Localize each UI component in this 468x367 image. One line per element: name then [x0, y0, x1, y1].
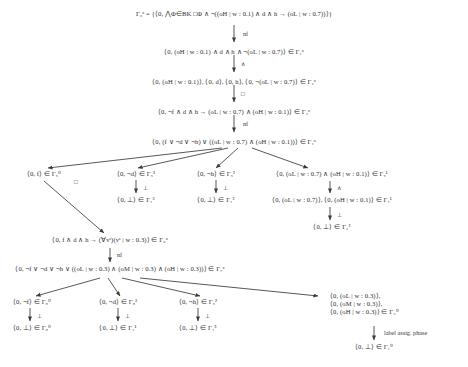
edge-label-bottom-2: ⊥	[223, 184, 228, 191]
node-bottom-notd2: ⟨0, ⊥⟩ ∈ Γ₄¹	[99, 324, 136, 332]
node-label-ol: ⟨0, (oL | w : 0.3)⟩,	[330, 292, 399, 300]
node-gamma6: ⟨0, f ∧ d ∧ h → (∀vˢ)(vˢ | w : 0.3)⟩ ∈ Γ…	[52, 236, 167, 244]
node-bottom-noth: ⟨0, ⊥⟩ ∈ Γ₁²	[197, 196, 234, 204]
node-bottom-conj: ⟨0, ⊥⟩ ∈ Γ₂²	[313, 223, 350, 231]
edge-label-bottom-5: ⊥	[125, 312, 130, 319]
edge-label-box-2: □	[74, 178, 78, 185]
edge-label-bottom-3: ⊥	[337, 211, 342, 218]
node-gamma2: ⟨0, (oH | w : 0.1)⟩, ⟨0, d⟩, ⟨0, h⟩, ⟨0,…	[152, 78, 316, 86]
edge-label-box-1: □	[241, 90, 245, 97]
node-root: Γ₀ᵒ = {⟨0, ⋀Φ∈BK □Φ ∧ ¬((oH | w : 0.1) ∧…	[136, 10, 332, 18]
node-gamma3: ⟨0, ¬f ∧ d ∧ h → (oL | w : 0.7) ∧ (oH | …	[158, 108, 310, 116]
edge-label-nf-1: nf	[243, 30, 248, 37]
node-branch-f: ⟨0, f⟩ ∈ Γ₅⁰	[27, 170, 61, 178]
edge-label-nf-3: nf	[117, 251, 122, 258]
node-branch-noth2: ⟨0, ¬h⟩ ∈ Γ₅²	[179, 298, 217, 306]
edge-label-and-2: ∧	[337, 184, 341, 191]
node-label-oh: ⟨0, (oH | w : 0.3)⟩ ∈ Γ₃⁰	[330, 308, 399, 316]
node-gamma4: ⟨0, (f ∨ ¬d ∨ ¬h) ∨ ((oL | w : 0.7) ∧ (o…	[152, 138, 316, 146]
node-branch-noth: ⟨0, ¬h⟩ ∈ Γ₅²	[197, 170, 235, 178]
node-label-triple: ⟨0, (oL | w : 0.3)⟩, ⟨0, (oM | w : 0.3)⟩…	[330, 292, 399, 317]
node-branch-notd2: ⟨0, ¬d⟩ ∈ Γ₈³	[99, 298, 137, 306]
node-branch-notf2: ⟨0, ¬f⟩ ∈ Γ₈⁰	[13, 298, 51, 306]
proof-tree-figure: Γ₀ᵒ = {⟨0, ⋀Φ∈BK □Φ ∧ ¬((oH | w : 0.1) ∧…	[0, 0, 468, 367]
edge-label-bottom-1: ⊥	[143, 184, 148, 191]
edge-label-bottom-6: ⊥	[205, 312, 210, 319]
node-bottom-notd: ⟨0, ⊥⟩ ∈ Γ₁³	[117, 196, 154, 204]
edge-label-label-assign-phase: label assig. phase	[384, 329, 427, 336]
node-split-conj: ⟨0, (oL | w : 0.7)⟩, ⟨0, (oH | w : 0.1)⟩…	[272, 196, 392, 204]
node-gamma7: ⟨0, ¬f ∨ ¬d ∨ ¬h ∨ ((oL | w : 0.3) ∧ (oM…	[15, 265, 224, 273]
edge-label-nf-2: nf	[243, 120, 248, 127]
edge-label-bottom-4: ⊥	[37, 312, 42, 319]
node-bottom-noth2: ⟨0, ⊥⟩ ∈ Γ₁⁵	[179, 324, 217, 332]
node-branch-conj: ⟨0, (oL | w : 0.7) ∧ (oH | w : 0.1)⟩ ∈ Γ…	[276, 170, 388, 178]
edge-label-and-1: ∧	[241, 60, 245, 67]
node-bottom-notf2: ⟨0, ⊥⟩ ∈ Γ₉⁰	[13, 324, 51, 332]
node-label-om: ⟨0, (oM | w : 0.3)⟩,	[330, 300, 399, 308]
node-branch-notd: ⟨0, ¬d⟩ ∈ Γ₅³	[117, 170, 155, 178]
node-bottom-final: ⟨0, ⊥⟩ ∈ Γ₁⁰	[355, 343, 393, 351]
node-gamma1: ⟨0, (oH | w : 0.1) ∧ d ∧ h ∧ ¬(oL | w : …	[164, 48, 304, 56]
